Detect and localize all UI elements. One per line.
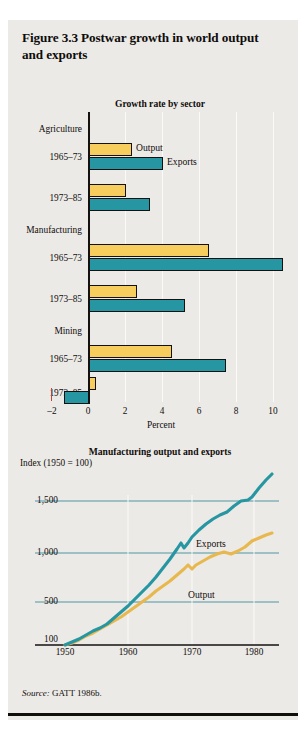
line-xtick-1970: 1970 [172,647,212,657]
line-ytick-500: 500 [18,596,58,606]
bar-x-axis-label: Percent [8,420,306,430]
output-line-label: Output [188,589,215,600]
bar-category-mining: Mining [2,326,82,336]
bar-manufacturing-1973-85-output [89,285,137,298]
line-xtick-1950: 1950 [45,647,85,657]
bar-mining-1973-85-exports [64,391,89,404]
bar-agriculture-1973-85-exports [89,198,150,211]
bar-xtick-10: 10 [261,406,285,416]
source-note: Source: GATT 1986b. [22,688,102,698]
line-xtick-1980: 1980 [234,647,274,657]
bar-manufacturing-1973-85-exports [89,299,185,312]
exports-line-label: Exports [196,538,226,549]
bar-manufacturing-1965-73-output [89,244,209,257]
bar-agriculture-1965-73-exports [89,157,163,170]
line-ytick-1500: 1,500 [18,495,58,505]
bar-chart: Agriculture 1965–73 Output Exports 1973–… [0,112,306,412]
bar-xtick-neg2: –2 [40,406,64,416]
bar-xtick-2: 2 [113,406,137,416]
gridline-8 [236,112,237,402]
line-series-exports [65,474,272,645]
bar-category-agriculture-1973-85: 1973–85 [2,193,82,203]
bar-xtick-8: 8 [224,406,248,416]
bar-category-agriculture-1965-73: 1965–73 [2,152,82,162]
bar-chart-title: Growth rate by sector [0,98,306,109]
exports-series-label: Exports [167,156,197,167]
bar-category-mining-1965-73: 1965–73 [2,354,82,364]
gridline-10 [273,112,274,402]
bar-xtick-0: 0 [76,406,100,416]
bar-agriculture-1973-85-output [89,184,126,197]
output-series-label: Output [136,142,163,153]
bar-mining-1973-85-output [89,377,96,390]
figure-bottom-rule [8,713,298,716]
line-ytick-1000: 1,000 [18,547,58,557]
negative-axis-tick [51,388,52,401]
line-chart: Index (1950 = 100) 1,500 1,000 500 100 1… [0,455,306,670]
bar-mining-1965-73-output [89,345,172,358]
bar-category-manufacturing-1965-73: 1965–73 [2,253,82,263]
bar-mining-1965-73-exports [89,359,226,372]
source-value: GATT 1986b. [50,688,102,698]
bar-xtick-6: 6 [187,406,211,416]
bar-category-manufacturing-1973-85: 1973–85 [2,294,82,304]
source-label: Source: [22,688,50,698]
line-ytick-100: 100 [18,634,58,644]
bar-agriculture-1965-73-output [89,143,132,156]
bar-manufacturing-1965-73-exports [89,258,283,271]
bar-category-agriculture: Agriculture [2,124,82,134]
figure-title: Figure 3.3 Postwar growth in world outpu… [22,30,277,63]
line-xtick-1960: 1960 [108,647,148,657]
bar-xtick-4: 4 [150,406,174,416]
bar-category-manufacturing: Manufacturing [2,225,82,235]
